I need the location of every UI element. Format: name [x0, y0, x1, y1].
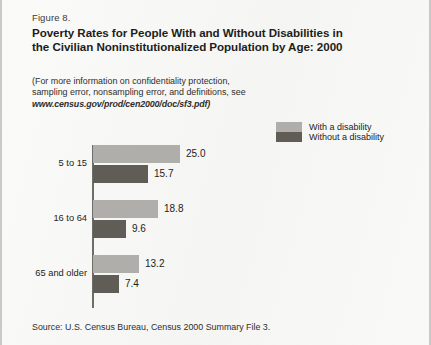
bar-without-disability-65-and-older [93, 275, 119, 293]
legend-label-without-disability: Without a disability [309, 132, 384, 142]
bar-group-16-to-64: 16 to 64 18.8 9.6 [2, 200, 431, 248]
bar-value-with-disability-5-to-15: 25.0 [186, 145, 205, 163]
figure-number: Figure 8. [32, 12, 70, 23]
legend-swatch-with-disability [276, 122, 302, 132]
bar-value-with-disability-65-and-older: 13.2 [145, 255, 164, 273]
legend-item-with-disability: With a disability [276, 122, 384, 132]
bar-group-5-to-15: 5 to 15 25.0 15.7 [2, 145, 431, 193]
chart-legend: With a disability Without a disability [276, 122, 384, 142]
bar-group-65-and-older: 65 and older 13.2 7.4 [2, 255, 431, 303]
category-label-5-to-15: 5 to 15 [59, 158, 87, 168]
category-label-16-to-64: 16 to 64 [53, 213, 87, 223]
figure-note-url: www.census.gov/prod/cen2000/doc/sf3.pdf) [32, 99, 210, 109]
bar-with-disability-5-to-15 [93, 145, 180, 163]
bar-value-with-disability-16-to-64: 18.8 [164, 200, 183, 218]
figure-source: Source: U.S. Census Bureau, Census 2000 … [32, 322, 270, 332]
bar-without-disability-5-to-15 [93, 165, 148, 183]
bar-value-without-disability-5-to-15: 15.7 [154, 165, 173, 183]
figure-note-line-1: (For more information on confidentiality… [32, 76, 230, 86]
legend-label-with-disability: With a disability [309, 122, 372, 132]
bar-value-without-disability-65-and-older: 7.4 [125, 275, 139, 293]
category-label-65-and-older: 65 and older [35, 268, 87, 278]
bar-with-disability-65-and-older [93, 255, 139, 273]
figure-title: Poverty Rates for People With and Withou… [32, 26, 362, 55]
legend-item-without-disability: Without a disability [276, 132, 384, 142]
bar-chart: 5 to 15 25.0 15.7 16 to 64 18.8 9.6 65 a… [2, 145, 431, 310]
bar-with-disability-16-to-64 [93, 200, 158, 218]
bar-value-without-disability-16-to-64: 9.6 [132, 220, 146, 238]
figure-panel: Figure 8. Poverty Rates for People With … [0, 0, 431, 345]
bar-without-disability-16-to-64 [93, 220, 126, 238]
figure-note-line-2: sampling error, nonsampling error, and d… [32, 87, 246, 97]
legend-swatch-without-disability [276, 132, 302, 142]
figure-note: (For more information on confidentiality… [32, 76, 372, 110]
